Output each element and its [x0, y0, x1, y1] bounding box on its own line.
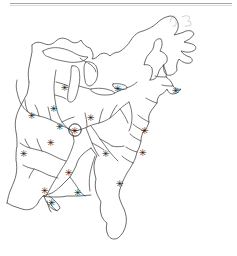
site-marker[interactable]: ✳ohio valley site — [87, 112, 95, 123]
site-marker[interactable]: ✳chesapeake site — [141, 125, 149, 136]
marker-star-icon: ✳ — [116, 178, 124, 189]
marker-star-icon: ✳ — [41, 185, 49, 196]
site-marker[interactable]: ✳lower missouri site — [47, 137, 55, 148]
site-marker[interactable]: ✳lower mississippi site — [41, 185, 49, 196]
marker-star-icon: ✳ — [71, 125, 79, 136]
scan-artifact — [170, 16, 191, 26]
site-marker[interactable]: ✳lower south site — [65, 167, 73, 178]
coastline-outline — [7, 16, 196, 239]
site-marker[interactable]: ✳carolina coastal site — [139, 147, 147, 158]
great-lakes-outlines — [43, 48, 137, 102]
marker-star-icon: ✳ — [50, 103, 58, 114]
marker-star-icon: ✳ — [28, 110, 36, 121]
marker-star-icon: ✳ — [141, 125, 149, 136]
site-marker[interactable]: ✳tennessee valley site — [102, 148, 110, 159]
marker-star-icon: ✳ — [61, 82, 69, 93]
site-marker[interactable]: ✳upper mississippi site — [50, 103, 58, 114]
map-figure: ✳upper midwest site✳upper mississippi si… — [0, 0, 237, 256]
site-marker[interactable]: ✳delta site — [48, 197, 56, 208]
river-network — [16, 70, 173, 196]
marker-star-icon: ✳ — [48, 197, 56, 208]
marker-star-icon: ✳ — [87, 112, 95, 123]
figure-root: ✳upper midwest site✳upper mississippi si… — [0, 0, 237, 256]
site-marker[interactable]: ✳new england coastal site — [172, 85, 180, 96]
site-marker[interactable]: ✳upper midwest site — [61, 82, 69, 93]
marker-star-icon: ✳ — [114, 83, 122, 94]
site-marker[interactable]: ✳southeast coastal site — [116, 178, 124, 189]
site-marker[interactable]: ✳arkansas river site — [20, 148, 28, 159]
site-marker[interactable]: ✳missouri river site — [28, 110, 36, 121]
marker-star-icon: ✳ — [172, 85, 180, 96]
site-marker[interactable]: ✳gulf coast site — [74, 187, 82, 198]
site-marker[interactable]: ✳mid mississippi site — [56, 121, 64, 132]
marker-star-icon: ✳ — [47, 137, 55, 148]
page-header-rule — [10, 4, 232, 6]
site-marker[interactable]: ✳northeast interior site — [114, 83, 122, 94]
marker-star-icon: ✳ — [65, 167, 73, 178]
marker-star-icon: ✳ — [102, 148, 110, 159]
marker-star-icon: ✳ — [56, 121, 64, 132]
marker-star-icon: ✳ — [74, 187, 82, 198]
marker-star-icon: ✳ — [139, 147, 147, 158]
site-markers-layer: ✳upper midwest site✳upper mississippi si… — [20, 82, 180, 208]
marker-star-icon: ✳ — [20, 148, 28, 159]
